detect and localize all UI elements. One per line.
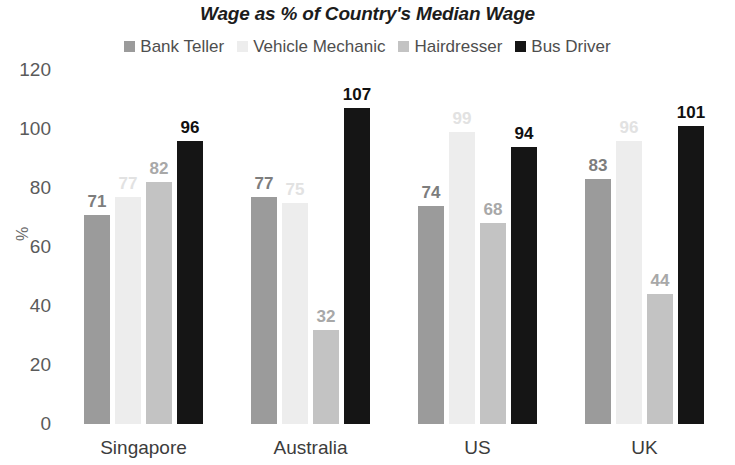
bar-value-label: 101 bbox=[677, 104, 705, 121]
bar-column[interactable]: 75 bbox=[282, 203, 308, 424]
bar-column[interactable]: 107 bbox=[344, 108, 370, 424]
bar[interactable] bbox=[115, 197, 141, 424]
bar[interactable] bbox=[146, 182, 172, 424]
bar-group: 839644101UK bbox=[561, 70, 728, 424]
bar[interactable] bbox=[480, 223, 506, 424]
bar-column[interactable]: 68 bbox=[480, 223, 506, 424]
bar-value-label: 68 bbox=[484, 201, 503, 218]
chart-title: Wage as % of Country's Median Wage bbox=[0, 3, 735, 25]
legend-item[interactable]: Bus Driver bbox=[515, 38, 610, 55]
y-axis-tick-label: 100 bbox=[19, 118, 51, 140]
bar-group: 74996894US bbox=[394, 70, 561, 424]
bar-column[interactable]: 94 bbox=[511, 147, 537, 424]
bar[interactable] bbox=[678, 126, 704, 424]
bar-column[interactable]: 96 bbox=[177, 141, 203, 424]
bar-column[interactable]: 77 bbox=[115, 197, 141, 424]
bar-value-label: 107 bbox=[343, 86, 371, 103]
bar[interactable] bbox=[282, 203, 308, 424]
bar[interactable] bbox=[585, 179, 611, 424]
chart-page: Wage as % of Country's Median Wage Bank … bbox=[0, 0, 735, 465]
bar[interactable] bbox=[647, 294, 673, 424]
bar-column[interactable]: 71 bbox=[84, 215, 110, 424]
y-axis-tick-label: 60 bbox=[30, 236, 51, 258]
legend-item[interactable]: Bank Teller bbox=[124, 38, 224, 55]
plot-area: 12010080604020071778296Singapore77753210… bbox=[60, 70, 728, 424]
bar[interactable] bbox=[84, 215, 110, 424]
bar-value-label: 77 bbox=[255, 175, 274, 192]
bar-value-label: 44 bbox=[651, 272, 670, 289]
legend-label: Bus Driver bbox=[531, 38, 610, 55]
bar[interactable] bbox=[344, 108, 370, 424]
bar[interactable] bbox=[616, 141, 642, 424]
bar-column[interactable]: 82 bbox=[146, 182, 172, 424]
bar-group: 71778296Singapore bbox=[60, 70, 227, 424]
bar-group: 777532107Australia bbox=[227, 70, 394, 424]
legend-swatch-icon bbox=[124, 41, 135, 52]
bar-value-label: 32 bbox=[317, 308, 336, 325]
bar-value-label: 94 bbox=[515, 125, 534, 142]
bar-group-bars: 74996894 bbox=[394, 70, 561, 424]
bar-group-bars: 839644101 bbox=[561, 70, 728, 424]
y-axis-tick-label: 80 bbox=[30, 177, 51, 199]
legend-label: Hairdresser bbox=[414, 38, 502, 55]
bar-value-label: 77 bbox=[119, 175, 138, 192]
y-axis-tick-label: 20 bbox=[30, 354, 51, 376]
legend-label: Bank Teller bbox=[140, 38, 224, 55]
x-axis-category-label: US bbox=[394, 437, 561, 459]
bar-column[interactable]: 101 bbox=[678, 126, 704, 424]
bar-column[interactable]: 99 bbox=[449, 132, 475, 424]
bar-value-label: 96 bbox=[620, 119, 639, 136]
bar-column[interactable]: 83 bbox=[585, 179, 611, 424]
bar-value-label: 75 bbox=[286, 181, 305, 198]
bar-value-label: 82 bbox=[150, 160, 169, 177]
bar-column[interactable]: 74 bbox=[418, 206, 444, 424]
chart-legend: Bank TellerVehicle MechanicHairdresserBu… bbox=[0, 38, 735, 55]
bar[interactable] bbox=[251, 197, 277, 424]
bar-column[interactable]: 96 bbox=[616, 141, 642, 424]
legend-item[interactable]: Hairdresser bbox=[398, 38, 502, 55]
bar-group-bars: 71778296 bbox=[60, 70, 227, 424]
x-axis-category-label: Australia bbox=[227, 437, 394, 459]
y-axis-tick-label: 120 bbox=[19, 59, 51, 81]
bar-value-label: 99 bbox=[453, 110, 472, 127]
bar-column[interactable]: 32 bbox=[313, 330, 339, 424]
bar[interactable] bbox=[313, 330, 339, 424]
bar[interactable] bbox=[177, 141, 203, 424]
legend-label: Vehicle Mechanic bbox=[253, 38, 385, 55]
bar[interactable] bbox=[511, 147, 537, 424]
bar-value-label: 74 bbox=[422, 184, 441, 201]
bar-value-label: 96 bbox=[181, 119, 200, 136]
y-axis-tick-label: 0 bbox=[40, 413, 51, 435]
bar-column[interactable]: 77 bbox=[251, 197, 277, 424]
bar-value-label: 83 bbox=[589, 157, 608, 174]
y-axis-tick-label: 40 bbox=[30, 295, 51, 317]
x-axis-category-label: UK bbox=[561, 437, 728, 459]
legend-item[interactable]: Vehicle Mechanic bbox=[237, 38, 385, 55]
bar[interactable] bbox=[449, 132, 475, 424]
x-axis-category-label: Singapore bbox=[60, 437, 227, 459]
bar-value-label: 71 bbox=[88, 193, 107, 210]
legend-swatch-icon bbox=[515, 41, 526, 52]
legend-swatch-icon bbox=[237, 41, 248, 52]
y-axis-title: % bbox=[14, 227, 32, 241]
bar-group-bars: 777532107 bbox=[227, 70, 394, 424]
bar[interactable] bbox=[418, 206, 444, 424]
legend-swatch-icon bbox=[398, 41, 409, 52]
bar-column[interactable]: 44 bbox=[647, 294, 673, 424]
